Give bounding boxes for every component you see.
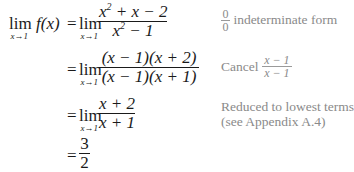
equals-sign: = xyxy=(67,147,77,164)
denominator: 0 xyxy=(221,21,230,33)
note-line-1: Reduced to lowest terms xyxy=(221,99,354,114)
note-indeterminate: 0 0 indeterminate form xyxy=(221,8,337,33)
numerator: x2 + x − 2 xyxy=(99,3,167,21)
denominator: (x − 1)(x + 1) xyxy=(99,68,199,86)
result-fraction: 3 2 xyxy=(79,135,90,172)
note-cancel: Cancel x − 1 x − 1 xyxy=(221,54,292,79)
cancel-fraction: x − 1 x − 1 xyxy=(262,54,292,79)
lim-word: lim xyxy=(9,15,32,32)
lim-subscript: x→1 xyxy=(7,32,32,41)
denominator: 2 xyxy=(79,154,90,172)
denominator: x2 − 1 xyxy=(99,22,167,40)
note-reduced: Reduced to lowest terms (see Appendix A.… xyxy=(221,99,354,129)
limit-operator-lhs: lim x→1 xyxy=(9,15,32,41)
equals-sign: = xyxy=(67,15,77,32)
equals-sign: = xyxy=(67,61,77,78)
note-text: indeterminate form xyxy=(233,12,337,27)
note-prefix: Cancel xyxy=(221,59,258,74)
equals-sign: = xyxy=(67,107,77,124)
function-f-of-x: f(x) xyxy=(36,15,60,32)
denominator: x + 1 xyxy=(99,114,135,132)
fraction-step-2: (x − 1)(x + 2) (x − 1)(x + 1) xyxy=(99,49,199,86)
numerator: x + 2 xyxy=(99,95,135,113)
note-line-2: (see Appendix A.4) xyxy=(221,114,354,129)
fraction-step-3: x + 2 x + 1 xyxy=(99,95,135,132)
lim-subscript: x→1 xyxy=(77,78,102,87)
numerator: (x − 1)(x + 2) xyxy=(99,49,199,67)
lim-subscript: x→1 xyxy=(77,32,102,41)
fraction-step-1: x2 + x − 2 x2 − 1 xyxy=(99,3,167,40)
denominator: x − 1 xyxy=(262,67,292,79)
numerator: 3 xyxy=(79,135,90,153)
numerator: 0 xyxy=(221,8,230,20)
lim-subscript: x→1 xyxy=(77,124,102,133)
zero-over-zero: 0 0 xyxy=(221,8,230,33)
numerator: x − 1 xyxy=(262,54,292,66)
